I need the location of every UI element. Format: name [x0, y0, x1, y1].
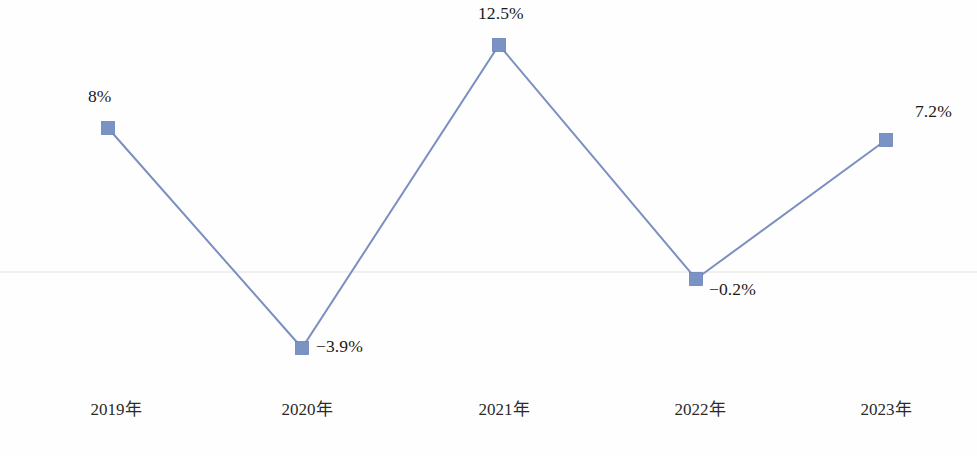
chart-plot-area: [0, 0, 977, 456]
line-chart: 8%−3.9%12.5%−0.2%7.2% 2019年2020年2021年202…: [0, 0, 977, 456]
data-point-label: 8%: [88, 88, 112, 106]
category-label-2021年: 2021年: [479, 401, 530, 418]
data-point-label: 7.2%: [915, 103, 952, 121]
data-point-marker[interactable]: [690, 273, 703, 286]
data-point-markers: [102, 39, 893, 355]
data-point-label: 12.5%: [478, 5, 524, 23]
data-point-label: −3.9%: [316, 338, 363, 356]
category-label-2022年: 2022年: [675, 401, 726, 418]
data-point-marker[interactable]: [493, 39, 506, 52]
data-point-marker[interactable]: [102, 122, 115, 135]
data-point-label: −0.2%: [709, 281, 756, 299]
data-point-marker[interactable]: [880, 134, 893, 147]
category-label-2020年: 2020年: [282, 401, 333, 418]
category-label-2019年: 2019年: [91, 401, 142, 418]
data-point-marker[interactable]: [296, 342, 309, 355]
series-line: [108, 45, 886, 348]
category-label-2023年: 2023年: [861, 401, 912, 418]
